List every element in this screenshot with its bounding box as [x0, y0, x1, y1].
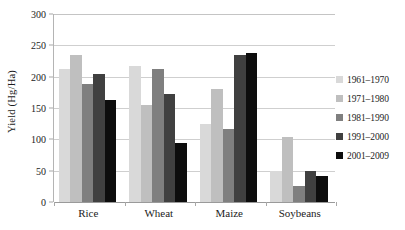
- y-axis-tick-label: 300: [31, 9, 46, 20]
- legend-swatch-icon: [336, 114, 343, 121]
- bar: [305, 171, 317, 202]
- x-axis-label-rice: Rice: [78, 207, 98, 219]
- plot-area: [53, 14, 335, 202]
- chart-legend: 1961–19701971–19801981–19901991–20002001…: [336, 70, 405, 165]
- bar-group-wheat: [125, 14, 196, 202]
- bar: [129, 66, 141, 202]
- bar: [141, 105, 153, 202]
- legend-item[interactable]: 1971–1980: [336, 89, 405, 108]
- bar: [105, 100, 117, 202]
- bar: [270, 171, 282, 202]
- legend-item-label: 1961–1970: [347, 75, 389, 85]
- y-axis-tick-labels: 050100150200250300: [20, 0, 49, 210]
- bar: [234, 55, 246, 202]
- x-axis-label-wheat: Wheat: [144, 207, 173, 219]
- legend-item[interactable]: 1981–1990: [336, 108, 405, 127]
- bar: [246, 53, 258, 202]
- bar: [70, 55, 82, 202]
- x-axis-category-labels: RiceWheatMaizeSoybeans: [53, 207, 335, 227]
- legend-item[interactable]: 1991–2000: [336, 127, 405, 146]
- bar: [316, 176, 328, 202]
- legend-swatch-icon: [336, 95, 343, 102]
- bars-layer: [54, 14, 335, 202]
- y-axis-tick-label: 250: [31, 40, 46, 51]
- bar: [59, 69, 71, 202]
- legend-item-label: 1971–1980: [347, 94, 389, 104]
- legend-item-label: 2001–2009: [347, 151, 389, 161]
- y-axis-title: Yield (Hg/Ha): [0, 0, 22, 202]
- legend-swatch-icon: [336, 76, 343, 83]
- legend-item[interactable]: 1961–1970: [336, 70, 405, 89]
- bar: [164, 94, 176, 202]
- bar: [93, 74, 105, 202]
- x-axis-tick-mark: [195, 202, 196, 206]
- bar: [200, 124, 212, 202]
- legend-item-label: 1991–2000: [347, 132, 389, 142]
- bar: [211, 89, 223, 202]
- bar: [82, 84, 94, 202]
- x-axis-label-maize: Maize: [216, 207, 243, 219]
- bar: [293, 186, 305, 202]
- bar: [152, 69, 164, 202]
- bar: [223, 129, 235, 202]
- y-axis-tick-label: 200: [31, 71, 46, 82]
- y-axis-tick-label: 100: [31, 134, 46, 145]
- bar-group-rice: [54, 14, 125, 202]
- x-axis-tick-mark: [54, 202, 55, 206]
- y-axis-title-text: Yield (Hg/Ha): [6, 70, 17, 133]
- bar-chart: Yield (Hg/Ha) 050100150200250300 RiceWhe…: [0, 0, 405, 230]
- bar: [175, 143, 187, 202]
- bar: [282, 137, 294, 202]
- y-axis-tick-label: 50: [36, 165, 46, 176]
- x-axis-label-soybeans: Soybeans: [279, 207, 321, 219]
- x-axis-tick-mark: [125, 202, 126, 206]
- bar-group-maize: [195, 14, 266, 202]
- bar-group-soybeans: [266, 14, 337, 202]
- legend-swatch-icon: [336, 152, 343, 159]
- y-axis-tick-label: 150: [31, 103, 46, 114]
- x-axis-tick-mark: [336, 202, 337, 206]
- legend-item-label: 1981–1990: [347, 113, 389, 123]
- legend-swatch-icon: [336, 133, 343, 140]
- x-axis-tick-mark: [266, 202, 267, 206]
- y-axis-tick-label: 0: [41, 197, 46, 208]
- legend-item[interactable]: 2001–2009: [336, 146, 405, 165]
